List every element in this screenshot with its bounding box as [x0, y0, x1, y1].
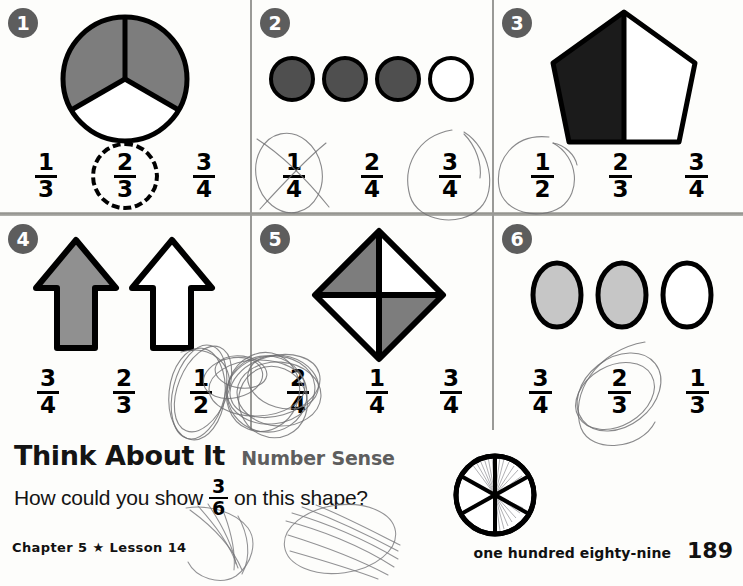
question-text-before: How could you show: [14, 486, 203, 510]
fraction: 2 3: [114, 151, 136, 202]
figure-circle-thirds: [0, 4, 250, 154]
question-text-after: on this shape?: [234, 486, 368, 510]
figure-two-arrows: [0, 220, 250, 370]
fraction: 2 4: [361, 151, 383, 202]
page-number-words: one hundred eighty-nine: [473, 545, 671, 561]
worksheet-page: 1 1 3: [0, 0, 743, 586]
answer-choice[interactable]: 1 3: [10, 151, 82, 202]
answer-choices: 3 4 2 3: [0, 360, 250, 424]
fraction: 3 4: [529, 367, 551, 418]
exercise-grid: 1 1 3: [0, 0, 743, 430]
answer-choices: 3 4 2 3 1: [494, 360, 743, 424]
exercise-4: 4 3 4 2 3: [0, 216, 250, 430]
answer-choice[interactable]: 3 4: [10, 367, 86, 418]
answer-choice-marked[interactable]: 2 3: [580, 367, 660, 418]
think-about-it-question: How could you show 3 6 on this shape?: [14, 477, 474, 519]
think-about-it-title: Think About It: [14, 440, 225, 471]
figure-four-circles: [252, 4, 492, 154]
answer-choice-marked[interactable]: 1 4: [254, 151, 334, 202]
answer-choices: 1 2 2 3 3 4: [494, 144, 743, 208]
fraction: 3 4: [440, 367, 462, 418]
fraction: 1 2: [190, 367, 212, 418]
think-about-it-header: Think About It Number Sense: [14, 440, 474, 471]
figure-diamond-quarters: [252, 220, 492, 370]
answer-choices: 2 4 1 4 3 4: [252, 360, 492, 424]
question-fraction: 3 6: [209, 477, 228, 519]
answer-choice[interactable]: 3 4: [414, 367, 488, 418]
fraction: 1 4: [283, 151, 305, 202]
figure-circle-sixths[interactable]: [452, 452, 538, 542]
exercise-6: 6 3 4: [494, 216, 743, 430]
fraction: 2 4: [287, 367, 309, 418]
fraction: 2 3: [608, 367, 630, 418]
exercise-2: 2 1 4: [252, 0, 492, 214]
footer-chapter-lesson: Chapter 5★Lesson 14: [12, 540, 187, 555]
footer-page-info: one hundred eighty-nine 189: [473, 538, 733, 563]
fraction: 1 3: [686, 367, 708, 418]
fraction: 2 3: [609, 151, 631, 202]
fraction: 3 4: [439, 151, 461, 202]
number-sense-label: Number Sense: [241, 447, 395, 469]
answer-choice-marked[interactable]: 1 2: [503, 151, 583, 202]
answer-choice[interactable]: 1 3: [660, 367, 736, 418]
answer-choices: 1 3 2 3 3 4: [0, 144, 250, 208]
exercise-5: 5: [252, 216, 492, 430]
answer-choice-marked[interactable]: 1 2: [162, 367, 240, 418]
answer-choice[interactable]: 3 4: [168, 151, 240, 202]
exercise-3: 3 1 2: [494, 0, 743, 214]
answer-choice[interactable]: 3 4: [659, 151, 735, 202]
fraction: 3 4: [37, 367, 59, 418]
fraction: 1 3: [35, 151, 57, 202]
footer-lesson: Lesson 14: [110, 540, 187, 555]
footer-chapter: Chapter 5: [12, 540, 88, 555]
exercise-1: 1 1 3: [0, 0, 250, 214]
answer-choice[interactable]: 2 3: [583, 151, 659, 202]
answer-choice-marked[interactable]: 3 4: [410, 151, 490, 202]
fraction: 3 4: [193, 151, 215, 202]
fraction: 3 4: [685, 151, 707, 202]
think-about-it-section: Think About It Number Sense How could yo…: [14, 440, 474, 519]
page-number: 189: [687, 538, 733, 563]
answer-choice[interactable]: 2 4: [334, 151, 410, 202]
answer-choice[interactable]: 1 4: [340, 367, 414, 418]
figure-three-ovals: [494, 220, 743, 370]
answer-choices: 1 4 2 4 3 4: [252, 144, 492, 208]
answer-choice-selected[interactable]: 2 3: [82, 151, 168, 202]
star-icon: ★: [93, 540, 105, 555]
answer-choice-marked[interactable]: 2 4: [256, 367, 340, 418]
fraction: 1 2: [531, 151, 553, 202]
fraction: 2 3: [113, 367, 135, 418]
answer-choice[interactable]: 3 4: [502, 367, 580, 418]
figure-pentagon-half: [494, 4, 743, 154]
fraction: 1 4: [366, 367, 388, 418]
answer-choice[interactable]: 2 3: [86, 367, 162, 418]
